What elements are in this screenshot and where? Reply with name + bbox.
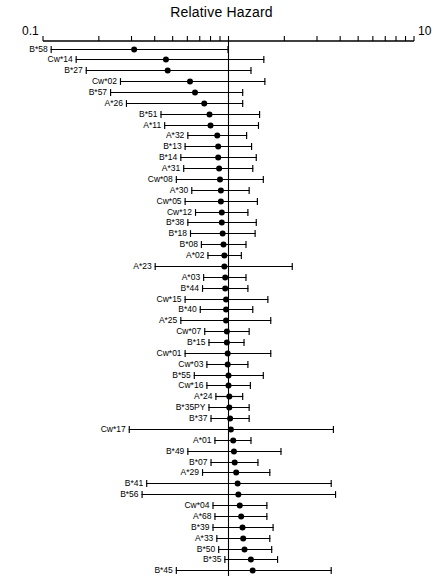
row-label: B*44 (0, 284, 199, 293)
row-label: A*32 (0, 131, 184, 140)
forest-row (208, 339, 244, 346)
forest-row (126, 100, 243, 107)
point-estimate-marker (220, 231, 226, 237)
row-label: Cw*17 (0, 425, 126, 434)
point-estimate-marker (187, 79, 193, 85)
point-estimate-marker (235, 481, 241, 487)
forest-row (110, 89, 243, 96)
row-label: B*39 (0, 523, 210, 532)
point-estimate-marker (231, 449, 237, 455)
forest-row (161, 111, 261, 118)
row-label: Cw*05 (0, 197, 182, 206)
point-estimate-marker (223, 307, 229, 313)
point-estimate-marker (230, 438, 236, 444)
row-label: Cw*14 (0, 55, 73, 64)
forest-row (206, 382, 250, 389)
point-estimate-marker (222, 286, 228, 292)
point-estimate-marker (250, 568, 256, 574)
forest-row (180, 154, 256, 161)
forest-row (202, 285, 248, 292)
point-estimate-marker (221, 242, 227, 248)
row-label: A*29 (0, 468, 199, 477)
row-label: Cw*01 (0, 349, 182, 358)
point-estimate-marker (226, 405, 232, 411)
point-estimate-marker (218, 199, 224, 205)
forest-row (215, 393, 243, 400)
forest-row (195, 209, 248, 216)
point-estimate-marker (221, 253, 227, 259)
forest-row (213, 502, 268, 509)
row-label: B*14 (0, 153, 177, 162)
point-estimate-marker (215, 155, 221, 161)
point-estimate-marker (233, 470, 239, 476)
forest-row (185, 143, 252, 150)
point-estimate-marker (219, 210, 225, 216)
forest-row (86, 67, 252, 74)
point-estimate-marker (238, 514, 244, 520)
row-label: A*30 (0, 186, 188, 195)
row-label: B*41 (0, 479, 143, 488)
forest-row (51, 46, 229, 53)
row-label: A*24 (0, 392, 212, 401)
row-label: B*57 (0, 88, 107, 97)
forest-row (183, 165, 253, 172)
row-label: B*15 (0, 338, 205, 347)
row-label: B*13 (0, 142, 182, 151)
forest-row (214, 513, 267, 520)
forest-row (216, 535, 270, 542)
forest-row (185, 350, 272, 357)
row-label: A*25 (0, 316, 177, 325)
row-label: B*45 (0, 566, 173, 575)
point-estimate-marker (240, 536, 246, 542)
point-estimate-marker (227, 416, 233, 422)
point-estimate-marker (226, 373, 232, 379)
forest-row (142, 491, 336, 498)
row-label: B*35PY (0, 403, 205, 412)
forest-row (190, 230, 256, 237)
point-estimate-marker (226, 383, 232, 389)
forest-row (211, 459, 259, 466)
row-label: B*51 (0, 110, 158, 119)
row-label: A*68 (0, 512, 211, 521)
point-estimate-marker (192, 90, 198, 96)
forest-row (180, 317, 271, 324)
row-label: Cw*07 (0, 327, 201, 336)
row-label: A*11 (0, 121, 161, 130)
row-label: Cw*15 (0, 295, 182, 304)
row-label: B*07 (0, 458, 208, 467)
row-label: Cw*12 (0, 208, 192, 217)
point-estimate-marker (214, 133, 220, 139)
row-label: B*50 (0, 545, 215, 554)
forest-row (200, 306, 254, 313)
forest-row (201, 241, 247, 248)
row-label: B*08 (0, 240, 198, 249)
forest-row (187, 448, 281, 455)
point-estimate-marker (131, 47, 137, 53)
forest-row (214, 437, 251, 444)
point-estimate-marker (226, 394, 232, 400)
point-estimate-marker (223, 318, 229, 324)
row-label: B*40 (0, 305, 197, 314)
point-estimate-marker (225, 351, 231, 357)
row-label: A*31 (0, 164, 180, 173)
point-estimate-marker (242, 547, 248, 553)
forest-row (76, 56, 265, 63)
forest-row (224, 556, 278, 563)
forest-row (120, 78, 265, 85)
point-estimate-marker (219, 220, 225, 226)
forest-row (187, 132, 247, 139)
forest-plot: Relative Hazard 0.1 10 B*58Cw*14B*27Cw*0… (0, 0, 443, 576)
point-estimate-marker (163, 57, 169, 63)
row-label: Cw*02 (0, 77, 117, 86)
point-estimate-marker (221, 264, 227, 270)
point-estimate-marker (223, 297, 229, 303)
row-label: Cw*04 (0, 501, 210, 510)
forest-row (206, 361, 248, 368)
row-label: Cw*16 (0, 381, 203, 390)
row-label: B*56 (0, 490, 139, 499)
row-label: B*58 (0, 45, 48, 54)
forest-row (176, 176, 264, 183)
point-estimate-marker (207, 112, 213, 118)
point-estimate-marker (201, 101, 207, 107)
row-label: A*33 (0, 534, 213, 543)
